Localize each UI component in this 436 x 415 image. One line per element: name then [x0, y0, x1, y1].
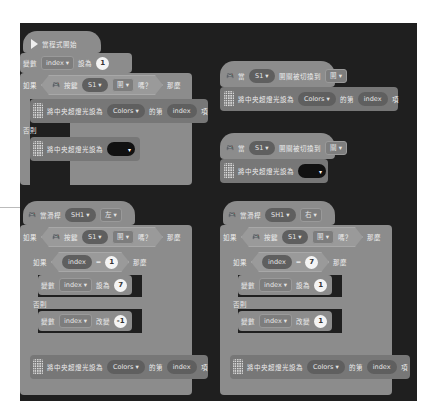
button-dropdown[interactable]: S1 ▾ — [82, 230, 108, 244]
switch-on-hat-block[interactable]: 🎮 當 S1 ▾ 開關被切換到 開 ▾ — [220, 61, 335, 87]
index-reporter[interactable]: index — [358, 92, 388, 106]
led-matrix-icon — [224, 91, 234, 107]
value-input[interactable]: 7 — [114, 279, 127, 292]
label: 嗎？ — [138, 232, 152, 242]
set-led-list-block[interactable]: 將中央超燈光設為 Colors ▾ 的第 index 項 — [30, 355, 208, 379]
slider-dropdown[interactable]: SH1 ▾ — [265, 208, 296, 222]
label: 變數 — [241, 280, 255, 290]
value-input[interactable]: 1 — [314, 315, 327, 328]
label: 設為 — [96, 280, 110, 290]
variable-reporter[interactable]: index — [62, 255, 92, 269]
direction-dropdown[interactable]: 左 ▾ — [100, 208, 122, 222]
label: 變數 — [23, 58, 37, 68]
color-picker[interactable]: ▾ — [107, 142, 135, 156]
set-variable-block[interactable]: 變數 index ▾ 設為 1 — [20, 53, 132, 73]
value-input[interactable]: 1 — [314, 279, 327, 292]
variable-dropdown[interactable]: index ▾ — [41, 56, 74, 70]
variable-dropdown[interactable]: index ▾ — [259, 314, 292, 328]
code-canvas[interactable]: 當程式開始 變數 index ▾ 設為 1 如果 🎮 按鍵 S1 ▾ 開 ▾ 嗎… — [20, 23, 417, 401]
gamepad-icon: 🎮 — [52, 81, 60, 89]
slider-dropdown[interactable]: SH1 ▾ — [65, 208, 96, 222]
list-dropdown[interactable]: Colors ▾ — [307, 360, 345, 374]
led-matrix-icon — [33, 141, 43, 157]
label: 當 — [238, 71, 245, 81]
button-dropdown[interactable]: S1 ▾ — [249, 141, 275, 155]
when-start-hat-block[interactable]: 當程式開始 — [23, 31, 101, 53]
label: 開關被切換到 — [279, 143, 321, 153]
change-variable-block[interactable]: 變數 index ▾ 改變 1 — [238, 311, 332, 331]
label: 將中央超燈光設為 — [47, 106, 103, 116]
play-icon — [31, 39, 38, 49]
variable-dropdown[interactable]: index ▾ — [59, 314, 92, 328]
state-dropdown[interactable]: 開 ▾ — [325, 69, 347, 83]
list-dropdown[interactable]: Colors ▾ — [107, 104, 145, 118]
label: 改變 — [96, 316, 110, 326]
variable-dropdown[interactable]: index ▾ — [59, 278, 92, 292]
list-dropdown[interactable]: Colors ▾ — [107, 360, 145, 374]
value-input[interactable]: -1 — [114, 315, 127, 328]
button-condition[interactable]: 🎮 按鍵 S1 ▾ 開 ▾ 嗎？ — [241, 227, 363, 247]
index-reporter[interactable]: index — [167, 360, 197, 374]
if-label: 如果 — [223, 232, 237, 242]
set-led-list-block[interactable]: 將中央超燈光設為 Colors ▾ 的第 index 項 — [30, 99, 208, 123]
label: 開關被切換到 — [279, 71, 321, 81]
state-dropdown[interactable]: 開 ▾ — [112, 78, 134, 92]
then-label: 那麼 — [133, 257, 147, 267]
set-led-color-block[interactable]: 將中央超燈光設為 ▾ — [220, 159, 328, 183]
index-reporter[interactable]: index — [367, 360, 397, 374]
label: 項 — [401, 362, 408, 372]
label: 的第 — [149, 362, 163, 372]
switch-off-hat-block[interactable]: 🎮 當 S1 ▾ 開關被切換到 關 ▾ — [220, 133, 335, 159]
if-label: 如果 — [23, 232, 37, 242]
button-condition[interactable]: 🎮 按鍵 S1 ▾ 開 ▾ 嗎？ — [41, 75, 163, 95]
state-dropdown[interactable]: 關 ▾ — [325, 141, 347, 155]
led-matrix-icon — [224, 163, 234, 179]
slider-left-hat-block[interactable]: 🎮 當滑桿 SH1 ▾ 左 ▾ — [23, 201, 135, 225]
set-led-list-block[interactable]: 將中央超燈光設為 Colors ▾ 的第 index 項 — [230, 355, 410, 379]
button-condition[interactable]: 🎮 按鍵 S1 ▾ 開 ▾ 嗎？ — [41, 227, 163, 247]
operator: = — [296, 258, 301, 266]
list-dropdown[interactable]: Colors ▾ — [298, 92, 336, 106]
direction-dropdown[interactable]: 右 ▾ — [300, 208, 322, 222]
slider-right-hat-block[interactable]: 🎮 當滑桿 SH1 ▾ 右 ▾ — [223, 201, 335, 225]
if-else-block[interactable]: 如果 🎮 按鍵 S1 ▾ 開 ▾ 嗎？ 那麼 — [20, 73, 192, 185]
set-variable-block[interactable]: 變數 index ▾ 設為 7 — [38, 275, 132, 295]
change-variable-block[interactable]: 變數 index ▾ 改變 -1 — [38, 311, 132, 331]
gamepad-icon: 🎮 — [226, 144, 234, 152]
gamepad-icon: 🎮 — [228, 211, 236, 219]
value-input[interactable]: 1 — [105, 256, 118, 269]
color-picker[interactable]: ▾ — [298, 164, 326, 178]
equals-condition[interactable]: index = 7 — [251, 252, 329, 272]
led-matrix-icon — [33, 359, 43, 375]
label: 當滑桿 — [240, 210, 261, 220]
label: 嗎？ — [338, 232, 352, 242]
button-dropdown[interactable]: S1 ▾ — [249, 69, 275, 83]
label: 的第 — [349, 362, 363, 372]
label: 變數 — [41, 280, 55, 290]
if-label: 如果 — [233, 257, 247, 267]
index-reporter[interactable]: index — [167, 104, 197, 118]
state-dropdown[interactable]: 開 ▾ — [112, 230, 134, 244]
divider-line — [0, 207, 20, 208]
set-led-list-block[interactable]: 將中央超燈光設為 Colors ▾ 的第 index 項 — [220, 87, 398, 111]
else-label: 否則 — [23, 125, 37, 135]
led-matrix-icon — [33, 103, 43, 119]
set-led-color-block[interactable]: 將中央超燈光設為 ▾ — [30, 137, 140, 161]
label: 嗎？ — [138, 80, 152, 90]
if-label: 如果 — [33, 257, 47, 267]
set-variable-block[interactable]: 變數 index ▾ 設為 1 — [238, 275, 332, 295]
value-input[interactable]: 1 — [96, 57, 109, 70]
label: 將中央超燈光設為 — [47, 144, 103, 154]
label: 將中央超燈光設為 — [47, 362, 103, 372]
else-label: 否則 — [33, 299, 47, 309]
button-dropdown[interactable]: S1 ▾ — [82, 78, 108, 92]
equals-condition[interactable]: index = 1 — [51, 252, 129, 272]
value-input[interactable]: 7 — [305, 256, 318, 269]
gamepad-icon: 🎮 — [252, 233, 260, 241]
led-matrix-icon — [233, 359, 243, 375]
variable-dropdown[interactable]: index ▾ — [259, 278, 292, 292]
variable-reporter[interactable]: index — [262, 255, 292, 269]
button-dropdown[interactable]: S1 ▾ — [282, 230, 308, 244]
state-dropdown[interactable]: 開 ▾ — [312, 230, 334, 244]
label: 改變 — [296, 316, 310, 326]
